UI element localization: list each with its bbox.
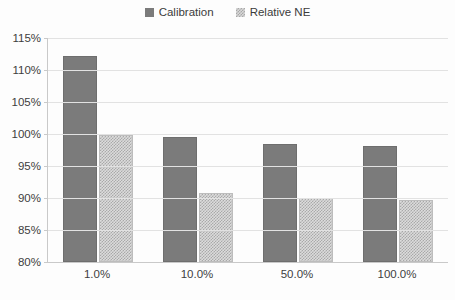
legend-entry-relative-ne: Relative NE (236, 6, 311, 18)
gridline (48, 198, 448, 199)
y-axis-tick-label: 90% (18, 192, 41, 204)
gridline (48, 38, 448, 39)
plot-area: 115%110%105%100%95%90%85%80% (47, 38, 448, 263)
gridline (48, 102, 448, 103)
chart-legend: Calibration Relative NE (0, 6, 455, 18)
x-axis-tick-label: 50.0% (247, 268, 347, 292)
y-axis-tick-mark (44, 230, 48, 231)
y-axis-tick-mark (44, 70, 48, 71)
y-axis-tick-mark (44, 38, 48, 39)
gridline (48, 230, 448, 231)
gridline (48, 134, 448, 135)
y-axis-tick-mark (44, 198, 48, 199)
bar-group (148, 38, 248, 262)
gridline (48, 166, 448, 167)
bar-group (248, 38, 348, 262)
y-axis-tick-mark (44, 102, 48, 103)
y-axis-tick-mark (44, 262, 48, 263)
y-axis-tick-mark (44, 166, 48, 167)
bar-group (348, 38, 448, 262)
bar-groups (48, 38, 448, 262)
y-axis-tick-label: 85% (18, 224, 41, 236)
x-axis-tick-label: 10.0% (147, 268, 247, 292)
bar-calibration[interactable] (263, 144, 297, 262)
legend-entry-calibration: Calibration (145, 6, 214, 18)
bar-chart: Calibration Relative NE 115%110%105%100%… (0, 0, 455, 300)
bar-calibration[interactable] (63, 56, 97, 262)
x-axis-labels: 1.0%10.0%50.0%100.0% (47, 268, 447, 292)
bar-calibration[interactable] (363, 146, 397, 262)
y-axis-tick-label: 115% (12, 32, 41, 44)
legend-label-calibration: Calibration (159, 6, 214, 18)
bar-calibration[interactable] (163, 137, 197, 262)
bar-group (48, 38, 148, 262)
y-axis-tick-label: 100% (12, 128, 41, 140)
y-axis-tick-mark (44, 134, 48, 135)
relative-ne-swatch-icon (236, 8, 245, 17)
x-axis-tick-label: 100.0% (347, 268, 447, 292)
calibration-swatch-icon (145, 8, 154, 17)
y-axis-tick-label: 105% (12, 96, 41, 108)
y-axis-tick-label: 110% (12, 64, 41, 76)
gridline (48, 70, 448, 71)
bar-relative-ne[interactable] (199, 193, 233, 262)
y-axis-tick-label: 95% (18, 160, 41, 172)
x-axis-tick-label: 1.0% (47, 268, 147, 292)
legend-label-relative-ne: Relative NE (250, 6, 311, 18)
y-axis-tick-label: 80% (18, 256, 41, 268)
